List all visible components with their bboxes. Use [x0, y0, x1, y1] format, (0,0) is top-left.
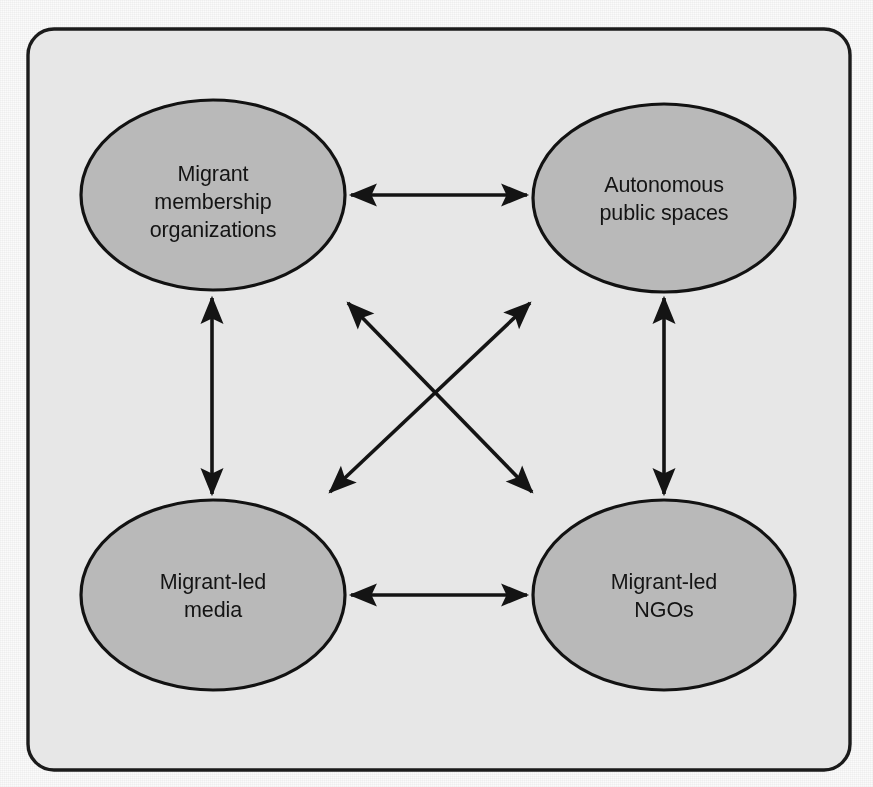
node-label-line-1: Autonomous: [604, 173, 724, 197]
node-migrant-led-media[interactable]: Migrant-led media: [81, 500, 345, 690]
node-migrant-membership-organizations[interactable]: Migrant membership organizations: [81, 100, 345, 290]
node-ellipse: [533, 500, 795, 690]
node-label-line-1: Migrant-led: [611, 570, 717, 594]
node-label-line-2: media: [184, 598, 242, 622]
node-migrant-led-ngos[interactable]: Migrant-led NGOs: [533, 500, 795, 690]
node-ellipse: [533, 104, 795, 292]
node-ellipse: [81, 500, 345, 690]
node-autonomous-public-spaces[interactable]: Autonomous public spaces: [533, 104, 795, 292]
node-label-line-2: public spaces: [600, 201, 729, 225]
diagram-canvas: Migrant membership organizations Autonom…: [0, 0, 873, 787]
node-label-line-2: membership: [154, 190, 271, 214]
node-label-line-1: Migrant-led: [160, 570, 266, 594]
node-label-line-2: NGOs: [634, 598, 693, 622]
node-label-line-1: Migrant: [178, 162, 249, 186]
node-label-line-3: organizations: [150, 218, 277, 242]
